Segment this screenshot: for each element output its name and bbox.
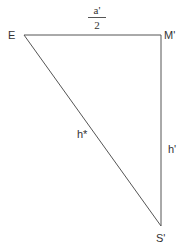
edge-label-h-star: h* (77, 129, 87, 140)
fraction-bar (88, 17, 106, 18)
edge-label-h-prime: h' (168, 144, 176, 155)
vertex-label-e: E (8, 30, 15, 41)
edge-label-a-half: a' 2 (86, 5, 108, 31)
fraction-numerator: a' (86, 5, 108, 16)
vertex-label-s: S' (156, 233, 165, 244)
triangle-svg (0, 0, 186, 251)
fraction-denominator: 2 (86, 20, 108, 31)
edge-e-s (24, 35, 161, 226)
vertex-label-m: M' (164, 30, 175, 41)
triangle-diagram: E M' S' h' h* a' 2 (0, 0, 186, 251)
